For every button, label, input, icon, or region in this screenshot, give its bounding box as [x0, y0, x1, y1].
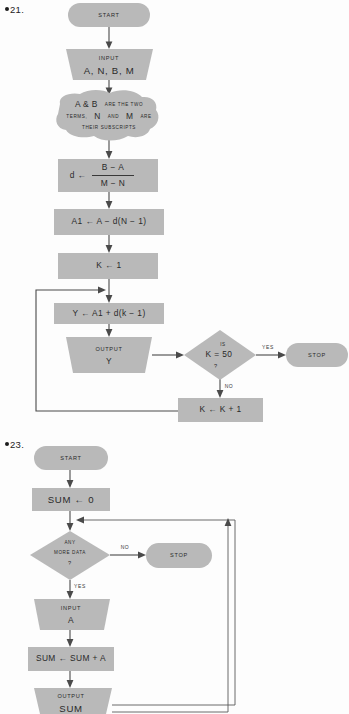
output-y-trapezoid-shape — [66, 337, 152, 373]
arrowhead-formula-to-a1 — [106, 201, 113, 209]
compute-y-label: Y ← A1 + d(k − 1) — [72, 308, 145, 318]
decision-line1-23: ANY — [64, 540, 75, 545]
arrowhead-decision-to-increment — [217, 390, 224, 398]
arrowhead-input-to-accumulate-23 — [67, 639, 74, 647]
node-21-input[interactable]: INPUT A, N, B, M — [66, 49, 153, 80]
node-21-compute-y[interactable]: Y ← A1 + d(k − 1) — [54, 303, 164, 324]
arrowhead-a1-to-initk — [106, 245, 113, 253]
node-21-init-k[interactable]: K ← 1 — [58, 253, 158, 279]
node-23-input[interactable]: INPUT A — [34, 599, 110, 630]
flowchart-page: 21. — [0, 0, 349, 714]
arrowhead-start-to-input — [106, 42, 113, 50]
output-y-line2: Y — [106, 356, 112, 366]
flowchart-23: START SUM ← 0 ANY MORE DATA ? NO YES STO… — [0, 430, 349, 714]
node-23-start[interactable]: START — [34, 446, 108, 470]
node-23-accumulate[interactable]: SUM ← SUM + A — [28, 647, 114, 671]
formula-numerator: B − A — [102, 162, 124, 172]
node-21-output-y[interactable]: OUTPUT Y — [66, 337, 152, 373]
arrowhead-decision-to-stop — [278, 352, 286, 359]
arrowhead-decision-to-stop-23 — [138, 552, 146, 559]
node-21-assign-a1[interactable]: A1 ← A − d(N − 1) — [54, 209, 164, 235]
output-sum-line1: OUTPUT — [57, 693, 84, 699]
decision-middle-label: K = 50 — [206, 349, 233, 359]
arrowhead-start-to-initsum — [67, 480, 74, 488]
edge-label-no-21: NO — [225, 383, 234, 389]
decision-bottom-label: ? — [214, 363, 218, 369]
assign-a1-label: A1 ← A − d(N − 1) — [72, 216, 147, 226]
arrowhead-loopback-23 — [76, 517, 84, 524]
flowchart-21: START INPUT A, N, B, M A & B ARE THE TWO… — [0, 0, 349, 430]
formula-lhs: d ← — [70, 170, 87, 180]
input-label-line2: A, N, B, M — [84, 65, 135, 76]
node-21-stop[interactable]: STOP — [286, 343, 348, 367]
stop-label: STOP — [308, 352, 326, 358]
annotation-line3: THEIR SUBSCRIPTS — [82, 125, 136, 130]
accumulate-label: SUM ← SUM + A — [36, 653, 106, 663]
node-21-decision[interactable]: IS K = 50 ? — [184, 330, 256, 380]
arrowhead-initsum-to-decision — [67, 523, 74, 531]
node-23-init-sum[interactable]: SUM ← 0 — [32, 488, 110, 511]
edge-label-yes-23: YES — [74, 583, 86, 589]
output-sum-line2: SUM — [59, 703, 82, 714]
decision-line2-23: MORE DATA — [54, 550, 86, 555]
start-label-23: START — [60, 455, 81, 461]
init-k-label: K ← 1 — [96, 260, 121, 270]
decision-top-label: IS — [220, 342, 226, 347]
arrowhead-decision-to-input-23 — [67, 591, 74, 599]
formula-denominator: M − N — [101, 178, 126, 188]
node-21-increment-k[interactable]: K ← K + 1 — [178, 398, 263, 422]
decision-line3-23: ? — [68, 560, 72, 566]
annotation-line2-c: AND — [108, 114, 120, 119]
node-21-start[interactable]: START — [68, 3, 150, 27]
arrowhead-loopback-21 — [98, 287, 106, 294]
edge-label-no-23: NO — [121, 544, 130, 550]
input-label-line1: INPUT — [99, 55, 119, 61]
node-23-decision[interactable]: ANY MORE DATA ? — [30, 531, 110, 580]
increment-k-label: K ← K + 1 — [199, 404, 241, 414]
arrowhead-y-to-output — [106, 329, 113, 337]
output-y-line1: OUTPUT — [95, 346, 122, 352]
arrowhead-annotation-to-formula — [106, 151, 113, 159]
edge-label-yes-21: YES — [262, 344, 274, 350]
arrowhead-output-to-decision — [176, 352, 184, 359]
node-21-annotation[interactable]: A & B ARE THE TWO TERMS, N AND M ARE THE… — [56, 90, 158, 140]
input-line1-23: INPUT — [61, 605, 81, 611]
annotation-line2-d: M — [126, 111, 133, 121]
annotation-line2-e: ARE — [140, 114, 151, 119]
init-sum-label: SUM ← 0 — [48, 494, 94, 505]
stop-label-23: STOP — [170, 552, 188, 558]
start-label: START — [98, 12, 119, 18]
arrowhead-initk-to-y — [106, 295, 113, 303]
arrowhead-loopback-riser-23 — [225, 518, 232, 526]
arrowhead-accumulate-to-output-23 — [67, 680, 74, 688]
annotation-line2-b: N — [94, 111, 100, 121]
input-line2-23: A — [68, 615, 74, 625]
decision-diamond-shape-23 — [30, 531, 110, 580]
node-23-stop[interactable]: STOP — [146, 543, 212, 568]
node-23-output-sum[interactable]: OUTPUT SUM — [34, 688, 112, 714]
node-21-formula-d[interactable]: d ← B − A M − N — [58, 159, 158, 192]
annotation-line2-a: TERMS, — [66, 114, 87, 119]
